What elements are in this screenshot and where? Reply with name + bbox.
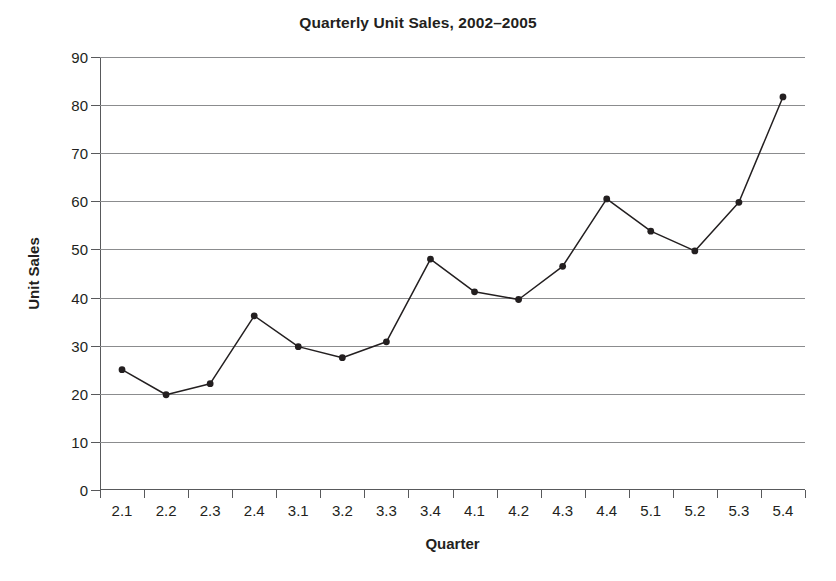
x-axis-tick [276,490,277,498]
data-point-marker: 2.2: 19.8 [163,391,170,398]
y-axis-tick [91,57,100,58]
x-axis-tick [144,490,145,498]
y-axis-tick-label: 10 [71,433,88,450]
data-point-marker: 5.1: 53.8 [647,228,654,235]
y-axis-title-text: Unit Sales [25,237,42,310]
x-axis-tick [232,490,233,498]
data-point-marker: 3.4: 48 [427,256,434,263]
y-axis-tick-label: 0 [80,482,88,499]
x-axis-tick [717,490,718,498]
y-axis-tick-label: 70 [71,145,88,162]
x-axis-tick-label: 4.1 [464,502,485,519]
x-axis-tick-label: 3.2 [332,502,353,519]
x-axis-tick [761,490,762,498]
line-chart: Quarterly Unit Sales, 2002–2005 Unit Sal… [0,0,836,581]
x-axis-tick [497,490,498,498]
y-axis-tick [91,490,100,491]
data-point-marker: 5.4: 81.7 [780,94,787,101]
x-axis-tick-label: 5.2 [684,502,705,519]
y-axis-tick [91,298,100,299]
x-axis-tick [673,490,674,498]
y-axis-tick [91,442,100,443]
x-axis-tick [453,490,454,498]
y-axis-tick [91,346,100,347]
x-axis-tick [805,490,806,498]
x-axis-tick [585,490,586,498]
data-point-marker: 2.1: 25 [119,366,126,373]
y-axis-tick [91,153,100,154]
x-axis-tick-label: 5.1 [640,502,661,519]
x-axis-tick-label: 3.3 [376,502,397,519]
data-point-marker: 4.1: 41.2 [471,288,478,295]
x-axis-tick [541,490,542,498]
data-point-marker: 3.2: 27.5 [339,354,346,361]
y-axis-tick-label: 90 [71,49,88,66]
y-axis-tick [91,249,100,250]
y-axis-tick-label: 40 [71,289,88,306]
y-axis-tick [91,201,100,202]
y-axis-title: Unit Sales [22,57,44,490]
data-point-marker: 5.2: 49.7 [691,247,698,254]
series-line-unit-sales: 2.1: 252.2: 19.82.3: 22.12.4: 36.23.1: 2… [100,57,805,490]
data-point-marker: 3.1: 29.8 [295,343,302,350]
plot-area: 0102030405060708090 2.12.22.32.43.13.23.… [100,57,805,490]
y-axis-tick-label: 50 [71,241,88,258]
x-axis-tick-label: 4.2 [508,502,529,519]
x-axis-tick [188,490,189,498]
y-axis-tick [91,394,100,395]
x-axis-tick-label: 3.1 [288,502,309,519]
x-axis-tick-label: 5.4 [773,502,794,519]
y-axis-tick-label: 30 [71,337,88,354]
x-axis-tick-label: 2.1 [112,502,133,519]
data-point-marker: 3.3: 30.8 [383,338,390,345]
series-polyline [122,97,783,395]
data-point-marker: 2.3: 22.1 [207,380,214,387]
data-point-marker: 5.3: 59.8 [736,199,743,206]
x-axis-tick-label: 4.4 [596,502,617,519]
x-axis-tick-label: 4.3 [552,502,573,519]
x-axis-tick [364,490,365,498]
x-axis-tick [408,490,409,498]
data-point-marker: 4.2: 39.6 [515,296,522,303]
y-axis-tick-label: 20 [71,385,88,402]
x-axis-tick-label: 3.4 [420,502,441,519]
chart-title: Quarterly Unit Sales, 2002–2005 [0,14,836,32]
x-axis-tick [320,490,321,498]
data-point-marker: 4.3: 46.5 [559,263,566,270]
y-axis-tick-label: 80 [71,97,88,114]
data-point-marker: 4.4: 60.5 [603,196,610,203]
y-axis-tick-label: 60 [71,193,88,210]
x-axis-tick-label: 2.2 [156,502,177,519]
y-axis-tick [91,105,100,106]
x-axis-tick [629,490,630,498]
x-axis-tick-label: 2.3 [200,502,221,519]
data-point-marker: 2.4: 36.2 [251,312,258,319]
x-axis-title: Quarter [100,535,805,552]
x-axis-tick-label: 2.4 [244,502,265,519]
x-axis-tick [100,490,101,498]
x-axis-tick-label: 5.3 [728,502,749,519]
